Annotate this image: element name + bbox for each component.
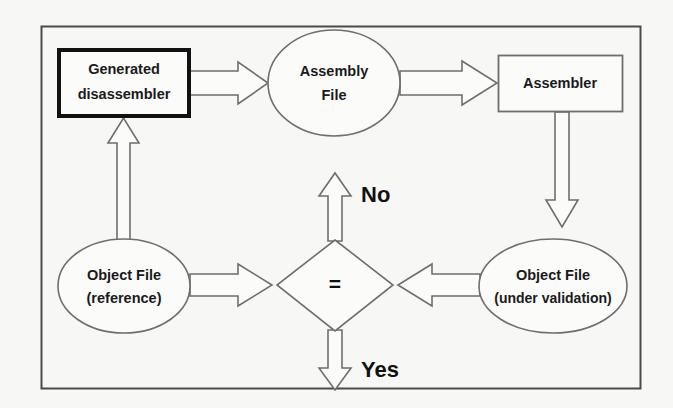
node-generated-disassembler-line2: disassembler bbox=[78, 86, 171, 102]
edge-comparison-no-branch bbox=[319, 173, 351, 241]
node-assembler-label: Assembler bbox=[523, 75, 598, 91]
node-object-file-reference-line2: (reference) bbox=[87, 290, 162, 306]
node-object-file-under-validation-line1: Object File bbox=[516, 267, 590, 283]
node-object-file-reference-line1: Object File bbox=[87, 267, 161, 283]
node-assembly-file-line1: Assembly bbox=[300, 63, 369, 79]
edge-object-file-under-validation-to-comparison bbox=[398, 264, 480, 306]
figure-canvas: Generated disassembler Assembly File Ass… bbox=[0, 0, 673, 408]
edge-comparison-yes-branch bbox=[319, 330, 351, 390]
flowchart-diagram: Generated disassembler Assembly File Ass… bbox=[0, 0, 673, 408]
node-assembly-file-line2: File bbox=[322, 87, 347, 103]
branch-label-yes: Yes bbox=[361, 357, 399, 382]
branch-label-no: No bbox=[361, 182, 390, 207]
edge-assembly-file-to-assembler bbox=[400, 61, 497, 105]
edge-disassembler-to-assembly-file bbox=[189, 62, 268, 104]
node-comparison-operator: = bbox=[329, 272, 341, 295]
node-object-file-under-validation-line2: (under validation) bbox=[494, 290, 611, 306]
node-object-file-under-validation[interactable]: Object File (under validation) bbox=[479, 239, 627, 333]
node-generated-disassembler[interactable]: Generated disassembler bbox=[59, 50, 189, 116]
node-assembly-file[interactable]: Assembly File bbox=[268, 30, 400, 136]
node-comparison-decision[interactable]: = bbox=[277, 240, 393, 331]
edge-assembler-to-object-file-under-validation bbox=[546, 112, 578, 227]
edge-object-file-reference-to-comparison bbox=[190, 264, 272, 306]
node-assembler[interactable]: Assembler bbox=[499, 56, 623, 112]
edge-object-file-reference-to-disassembler bbox=[108, 118, 139, 243]
node-generated-disassembler-line1: Generated bbox=[88, 61, 160, 77]
node-object-file-reference[interactable]: Object File (reference) bbox=[58, 239, 190, 333]
